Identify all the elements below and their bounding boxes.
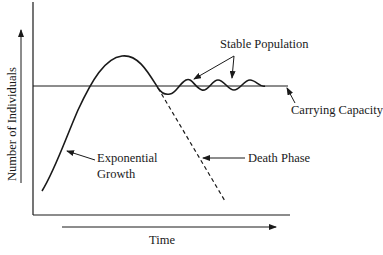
exponential-growth-pointer [67,151,95,160]
stable-population-pointer-right [232,56,234,78]
death-phase-label: Death Phase [248,152,310,165]
stable-population-label: Stable Population [220,38,309,51]
exponential-growth-label-line1: Exponential [97,152,157,165]
y-axis-label: Number of Individuals [5,67,20,181]
carrying-capacity-label: Carrying Capacity [291,104,383,117]
stable-population-pointer-left [194,56,234,79]
exponential-growth-label-line2: Growth [97,168,135,181]
carrying-capacity-pointer [287,88,295,103]
population-curve [42,56,265,191]
x-axis-label: Time [149,234,175,247]
death-phase-curve [158,88,225,201]
